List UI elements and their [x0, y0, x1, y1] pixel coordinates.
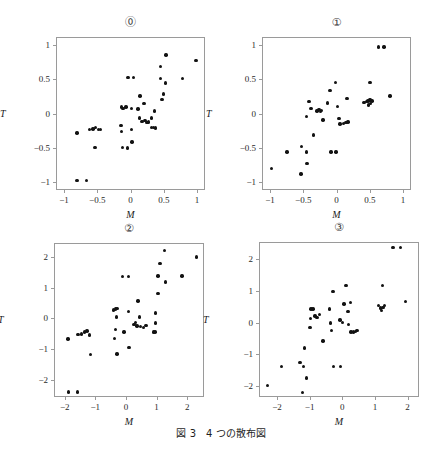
- data-point: [301, 391, 304, 394]
- data-point: [303, 346, 306, 349]
- y-tick-label: 0: [223, 318, 253, 327]
- y-tick-label: −1: [223, 350, 253, 359]
- x-tick: [408, 397, 409, 400]
- data-point: [347, 323, 350, 326]
- data-point: [328, 307, 331, 310]
- x-tick-label: 1: [373, 403, 378, 412]
- data-point: [298, 361, 301, 364]
- data-point: [315, 316, 318, 319]
- y-axis-label: T: [203, 315, 209, 325]
- data-point: [342, 302, 345, 305]
- data-point: [381, 284, 384, 287]
- data-point: [329, 321, 332, 324]
- data-point: [309, 317, 312, 320]
- data-point: [404, 300, 407, 303]
- scatter-panel-3: ③−2−1012−2−1012MT: [0, 0, 442, 465]
- x-tick-label: −1: [305, 403, 315, 412]
- data-point: [330, 329, 333, 332]
- y-tick: [256, 386, 259, 387]
- y-tick: [256, 354, 259, 355]
- y-tick: [256, 323, 259, 324]
- data-point: [344, 284, 347, 287]
- data-point: [391, 246, 394, 249]
- x-axis-label: M: [335, 417, 343, 427]
- data-point: [331, 290, 334, 293]
- data-point: [321, 339, 324, 342]
- data-point: [280, 365, 283, 368]
- data-point: [355, 329, 358, 332]
- data-point: [266, 384, 269, 387]
- figure-caption: 図 3 4 つの散布図: [0, 428, 442, 440]
- x-tick-label: 0: [340, 403, 345, 412]
- y-tick: [256, 259, 259, 260]
- y-tick-label: 1: [223, 287, 253, 296]
- data-point: [305, 376, 308, 379]
- data-point: [332, 365, 335, 368]
- x-tick: [342, 397, 343, 400]
- x-tick: [375, 397, 376, 400]
- x-tick-label: −2: [272, 403, 282, 412]
- x-tick: [277, 397, 278, 400]
- plot-area-3: [259, 242, 419, 397]
- data-point: [339, 365, 342, 368]
- data-point: [318, 313, 321, 316]
- x-tick-label: 2: [405, 403, 410, 412]
- data-point: [380, 309, 383, 312]
- data-point: [383, 304, 386, 307]
- y-tick-label: 2: [223, 255, 253, 264]
- y-tick: [256, 291, 259, 292]
- data-point: [349, 301, 352, 304]
- panel-title-3: ③: [259, 222, 419, 234]
- x-tick: [310, 397, 311, 400]
- data-point: [302, 365, 305, 368]
- y-tick-label: −2: [223, 381, 253, 390]
- data-point: [308, 326, 311, 329]
- figure-container: ⓪−1−0.500.51−1−0.500.51MT①−1−0.500.51−1−…: [0, 0, 442, 465]
- data-point: [399, 246, 402, 249]
- data-point: [346, 310, 349, 313]
- data-point: [341, 321, 344, 324]
- data-point: [311, 307, 314, 310]
